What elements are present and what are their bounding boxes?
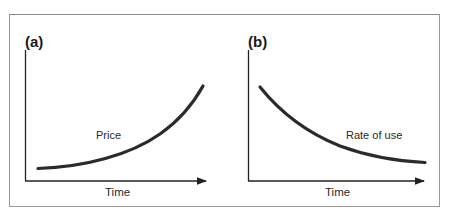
panel-a-curve-label: Price xyxy=(96,129,121,141)
panel-b-label: (b) xyxy=(248,33,267,50)
price-curve xyxy=(38,86,203,169)
rate-of-use-curve xyxy=(260,87,425,163)
panel-a-axes xyxy=(25,50,206,181)
panel-a-x-axis-label: Time xyxy=(105,186,130,198)
panel-a-label: (a) xyxy=(25,33,43,50)
figure-graphics xyxy=(0,0,450,219)
panel-b-curve-label: Rate of use xyxy=(346,129,402,141)
panel-b-x-axis-label: Time xyxy=(325,186,350,198)
